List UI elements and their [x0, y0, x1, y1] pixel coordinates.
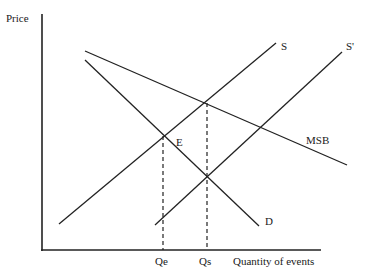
- s-label: S: [281, 40, 287, 52]
- y-axis-label: Price: [6, 12, 29, 24]
- e-label: E: [176, 136, 183, 148]
- supply-curve-s: [59, 43, 276, 224]
- d-label: D: [265, 215, 273, 227]
- qs-label: Qs: [199, 255, 211, 267]
- externality-diagram: Price Quantity of events S S' MSB D E Qe…: [0, 0, 369, 277]
- x-axis-label: Quantity of events: [233, 255, 314, 267]
- qe-label: Qe: [155, 255, 168, 267]
- msb-curve: [85, 51, 347, 165]
- demand-curve-d: [85, 60, 259, 226]
- msb-label: MSB: [306, 134, 329, 146]
- s-prime-label: S': [346, 40, 354, 52]
